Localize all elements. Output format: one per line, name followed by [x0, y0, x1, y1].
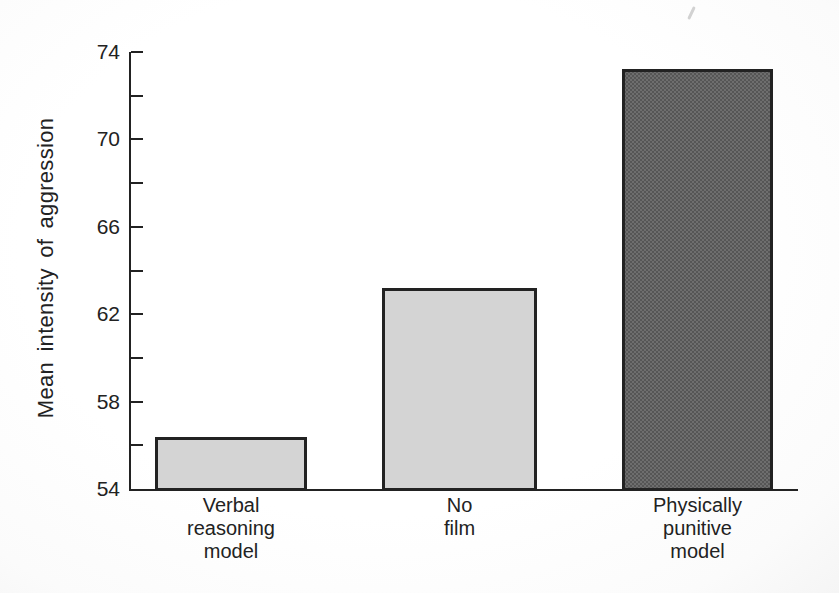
y-axis-tick-68	[131, 182, 143, 184]
y-tick-label-62: 62	[64, 302, 120, 326]
y-axis-tick-70	[131, 138, 143, 140]
x-label-physically-punitive-model: Physicallypunitivemodel	[588, 494, 808, 563]
x-axis-line	[129, 489, 798, 491]
y-axis-tick-60	[131, 357, 143, 359]
y-tick-label-70: 70	[64, 127, 120, 151]
scan-artifact-mark	[687, 6, 696, 20]
y-axis-line	[129, 52, 131, 491]
y-tick-label-58: 58	[64, 390, 120, 414]
bar-physically-punitive-model	[622, 69, 773, 491]
y-axis-tick-56	[131, 444, 143, 446]
y-axis-tick-66	[131, 226, 143, 228]
bar-verbal-reasoning-model	[155, 437, 307, 491]
y-axis-tick-62	[131, 313, 143, 315]
y-axis-tick-74	[131, 51, 143, 53]
x-label-no-film: Nofilm	[350, 494, 570, 540]
y-axis-tick-72	[131, 95, 143, 97]
bar-no-film	[382, 288, 537, 491]
y-axis-tick-58	[131, 401, 143, 403]
y-tick-label-54: 54	[64, 477, 120, 501]
bar-chart: Mean intensity of aggression 74706662585…	[0, 0, 839, 593]
y-axis-tick-64	[131, 270, 143, 272]
y-axis-title: Mean intensity of aggression	[33, 88, 59, 448]
scanned-figure-page: Mean intensity of aggression 74706662585…	[0, 0, 839, 593]
x-label-verbal-reasoning-model: Verbalreasoningmodel	[121, 494, 341, 563]
y-tick-label-66: 66	[64, 215, 120, 239]
y-tick-label-74: 74	[64, 40, 120, 64]
